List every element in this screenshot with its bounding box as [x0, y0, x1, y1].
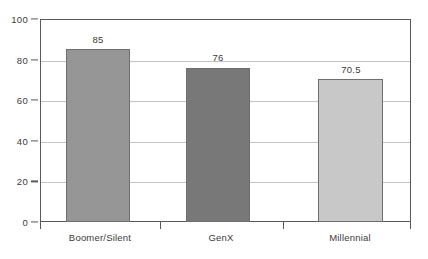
x-tick-mark-start	[40, 222, 41, 229]
x-tick-label-millennial: Millennial	[329, 232, 371, 243]
x-tick-label-genx: GenX	[208, 232, 233, 243]
bar-boomer-silent[interactable]	[66, 49, 130, 222]
bars-layer	[40, 19, 411, 222]
bar-millennial[interactable]	[318, 79, 383, 222]
y-tick-mark-40	[31, 140, 38, 141]
y-tick-label-0: 0	[22, 217, 28, 228]
y-tick-label-80: 80	[17, 54, 28, 65]
value-label-millennial: 70.5	[341, 64, 361, 75]
y-tick-mark-80	[31, 59, 38, 60]
value-label-genx: 76	[212, 52, 223, 63]
bar-genx[interactable]	[186, 68, 250, 222]
bar-chart: 0 20 40 60 80 100 85 76 70.5 Boomer/Sile…	[0, 0, 428, 259]
y-tick-mark-20	[31, 181, 38, 182]
value-label-boomer-silent: 85	[92, 34, 103, 45]
x-tick-mark-1	[160, 222, 161, 229]
y-tick-mark-0	[31, 221, 38, 222]
y-tick-mark-100	[31, 18, 38, 19]
y-tick-label-100: 100	[11, 14, 28, 25]
x-tick-mark-2	[283, 222, 284, 229]
y-tick-label-20: 20	[17, 176, 28, 187]
y-tick-label-60: 60	[17, 95, 28, 106]
y-axis: 0 20 40 60 80 100	[0, 0, 40, 259]
x-tick-mark-end	[410, 222, 411, 229]
y-tick-mark-60	[31, 100, 38, 101]
x-tick-label-boomer-silent: Boomer/Silent	[69, 232, 131, 243]
y-tick-label-40: 40	[17, 135, 28, 146]
